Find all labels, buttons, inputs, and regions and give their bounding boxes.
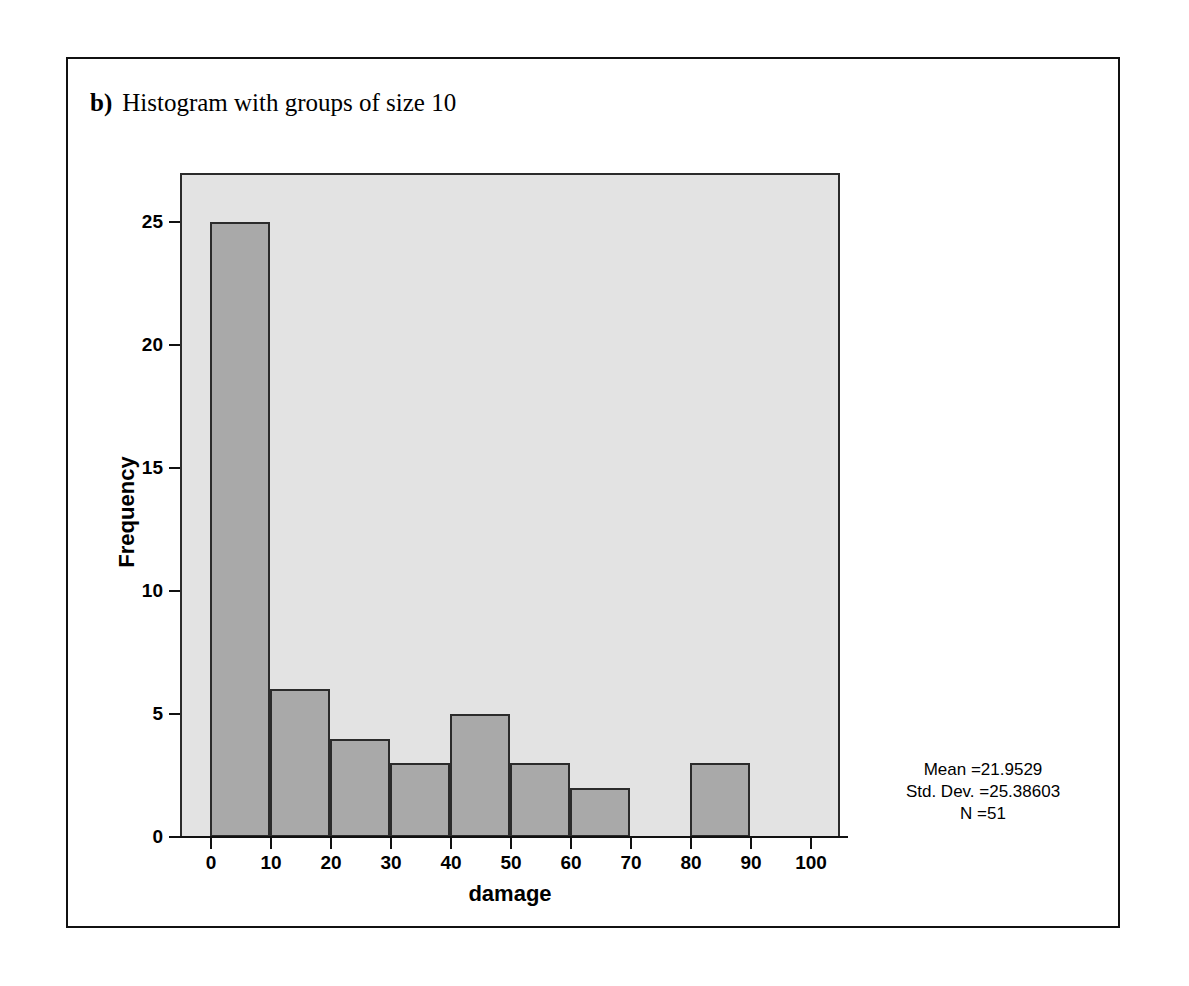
x-tick-label: 50 bbox=[500, 852, 521, 874]
x-tick-mark bbox=[810, 838, 812, 849]
x-tick-label: 100 bbox=[795, 852, 827, 874]
y-axis-line bbox=[180, 173, 182, 838]
stat-mean: Mean =21.9529 bbox=[868, 759, 1098, 781]
x-tick-label: 60 bbox=[560, 852, 581, 874]
x-tick-mark bbox=[510, 838, 512, 849]
y-tick-mark bbox=[169, 836, 180, 838]
x-axis-title: damage bbox=[180, 881, 840, 907]
x-tick-label: 20 bbox=[320, 852, 341, 874]
y-tick-label: 0 bbox=[152, 826, 163, 848]
y-tick-mark bbox=[169, 713, 180, 715]
y-tick-mark bbox=[169, 344, 180, 346]
y-tick-label: 25 bbox=[142, 211, 163, 233]
x-tick-mark bbox=[210, 838, 212, 849]
x-tick-label: 0 bbox=[206, 852, 217, 874]
statistics-annotation: Mean =21.9529 Std. Dev. =25.38603 N =51 bbox=[868, 759, 1098, 824]
y-tick-mark bbox=[169, 221, 180, 223]
x-tick-mark bbox=[330, 838, 332, 849]
y-tick-label: 5 bbox=[152, 703, 163, 725]
histogram-bar bbox=[690, 763, 750, 837]
x-tick-mark bbox=[570, 838, 572, 849]
x-tick-mark bbox=[690, 838, 692, 849]
histogram-bar bbox=[450, 714, 510, 837]
y-tick-mark bbox=[169, 590, 180, 592]
histogram-bar bbox=[330, 739, 390, 837]
histogram-chart: 0102030405060708090100 0510152025 damage… bbox=[68, 59, 1122, 930]
y-tick-label: 20 bbox=[142, 334, 163, 356]
x-tick-mark bbox=[270, 838, 272, 849]
stat-n: N =51 bbox=[868, 803, 1098, 825]
figure-frame: b)Histogram with groups of size 10 01020… bbox=[66, 57, 1120, 928]
x-tick-mark bbox=[390, 838, 392, 849]
x-tick-mark bbox=[450, 838, 452, 849]
x-tick-mark bbox=[750, 838, 752, 849]
x-tick-mark bbox=[630, 838, 632, 849]
y-tick-label: 15 bbox=[142, 457, 163, 479]
y-tick-label: 10 bbox=[142, 580, 163, 602]
histogram-bar bbox=[270, 689, 330, 837]
histogram-bar bbox=[210, 222, 270, 837]
x-tick-label: 10 bbox=[260, 852, 281, 874]
x-tick-label: 80 bbox=[680, 852, 701, 874]
y-tick-mark bbox=[169, 467, 180, 469]
histogram-bar bbox=[510, 763, 570, 837]
histogram-bar bbox=[570, 788, 630, 837]
x-tick-label: 70 bbox=[620, 852, 641, 874]
y-axis-title: Frequency bbox=[114, 456, 140, 567]
stat-std-dev: Std. Dev. =25.38603 bbox=[868, 781, 1098, 803]
x-tick-label: 40 bbox=[440, 852, 461, 874]
x-tick-label: 30 bbox=[380, 852, 401, 874]
histogram-bars bbox=[180, 173, 840, 837]
histogram-bar bbox=[390, 763, 450, 837]
x-tick-label: 90 bbox=[740, 852, 761, 874]
